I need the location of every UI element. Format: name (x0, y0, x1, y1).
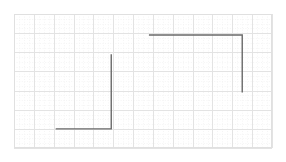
plot-area (14, 14, 272, 148)
plot-frame-layer (14, 14, 272, 148)
chart-figure (0, 0, 286, 162)
plot-border (15, 15, 272, 148)
